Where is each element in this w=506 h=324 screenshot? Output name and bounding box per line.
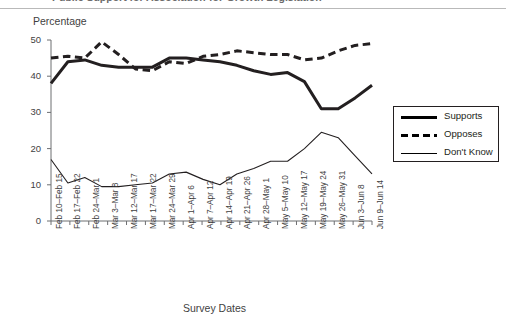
x-tick-label: Feb 24–Mar 1 [92,178,101,229]
x-tick-label: Apr 28–May 1 [262,178,271,229]
y-axis-title: Percentage [33,15,87,27]
x-tick-label: May 5–May 10 [281,175,290,229]
x-axis-title: Survey Dates [183,302,246,314]
x-tick-label: Apr 21–Apr 26 [243,176,252,229]
x-tick-label: May 12–May 17 [300,171,309,229]
y-tick-label: 30 [21,106,41,117]
series-line [51,42,372,71]
x-tick-label: Apr 1–Apr 6 [187,185,196,229]
legend-item: Supports [394,108,500,126]
legend-label: Don't Know [444,146,493,157]
x-tick-label: Apr 14–Apr 19 [225,176,234,229]
legend-item: Don't Know [394,144,500,162]
page-title: Public Support for Association-for-Growt… [52,0,322,3]
line-chart-plot [0,0,506,324]
y-tick-label: 40 [21,70,41,81]
title-divider [0,8,506,9]
chart-page: Public Support for Association-for-Growt… [0,0,506,324]
y-tick-label: 10 [21,179,41,190]
x-tick-label: Mar 3–Mar 8 [111,183,120,229]
legend-line-icon [401,116,437,119]
x-tick-label: Feb 17–Feb 22 [73,173,82,229]
x-tick-label: Mar 17–Mar 22 [149,173,158,229]
chart-legend: SupportsOpposesDon't Know [393,106,499,162]
legend-item: Opposes [394,126,500,144]
x-tick-label: Apr 7–Apr 12 [206,181,215,229]
x-tick-label: May 26–May 31 [338,171,347,229]
x-tick-label: Feb 10–Feb 15 [55,173,64,229]
y-tick-label: 0 [21,215,41,226]
x-tick-label: May 19–May 24 [319,171,328,229]
y-tick-label: 20 [21,143,41,154]
x-tick-label: Jun 3–Jun 8 [357,184,366,229]
series-line [51,58,372,109]
x-tick-label: Mar 12–Mar 17 [130,173,139,229]
legend-label: Supports [444,110,482,121]
legend-line-icon [401,134,437,137]
x-tick-label: Mar 24–Mar 29 [168,173,177,229]
legend-label: Opposes [444,128,482,139]
legend-line-icon [401,153,437,154]
x-tick-label: Jun 9–Jun 14 [376,180,385,229]
y-tick-label: 50 [21,34,41,45]
